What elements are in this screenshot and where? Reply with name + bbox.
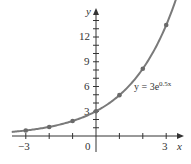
equation-label: y = 3e0.5x xyxy=(134,80,172,92)
data-point xyxy=(24,128,29,133)
x-tick-label-3: 3 xyxy=(162,140,168,152)
data-point xyxy=(70,119,75,124)
x-tick-label-neg3: −3 xyxy=(18,140,30,152)
y-tick-label-6: 6 xyxy=(84,80,90,92)
data-point xyxy=(164,23,169,28)
x-axis-arrow-icon xyxy=(177,133,184,139)
data-point xyxy=(117,93,122,98)
y-tick-label-12: 12 xyxy=(79,30,90,42)
x-tick-label-0: 0 xyxy=(85,140,91,152)
exponential-chart: −3 0 3 x 3 6 9 12 y y = 3e0.5x xyxy=(0,0,191,164)
y-axis-label: y xyxy=(85,5,91,17)
data-point xyxy=(94,109,99,114)
y-axis-arrow-icon xyxy=(93,8,99,15)
equation-exponent: 0.5x xyxy=(159,80,172,88)
data-point xyxy=(47,125,52,130)
y-tick-label-9: 9 xyxy=(84,55,90,67)
x-axis-label: x xyxy=(176,140,182,152)
data-point xyxy=(141,66,146,71)
equation-base: y = 3e xyxy=(134,81,160,92)
